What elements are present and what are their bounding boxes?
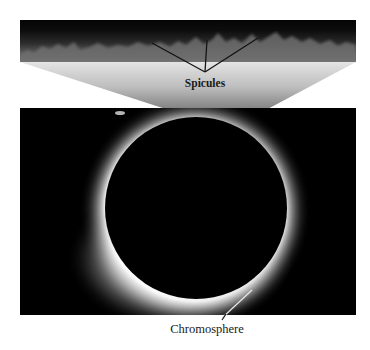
spicules-label: Spicules [185,77,225,89]
annotation-lines [0,0,370,350]
chromosphere-label: Chromosphere [170,322,244,337]
